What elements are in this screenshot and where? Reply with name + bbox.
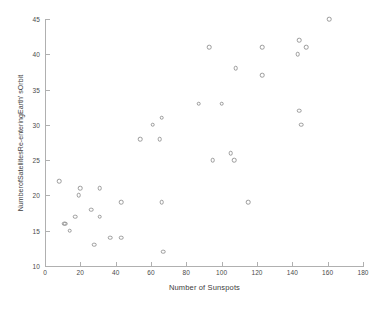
scatter-point bbox=[327, 17, 332, 22]
scatter-chart-figure: 020406080100120140160180 101520253035404… bbox=[0, 0, 381, 312]
scatter-point bbox=[297, 108, 302, 113]
scatter-point bbox=[159, 200, 164, 205]
scatter-point bbox=[234, 66, 239, 71]
x-axis-title: Number of Sunspots bbox=[45, 283, 364, 292]
scatter-point bbox=[97, 214, 102, 219]
scatter-point bbox=[299, 123, 304, 128]
scatter-point bbox=[57, 179, 62, 184]
x-axis-line bbox=[45, 266, 364, 267]
y-axis-tick-label: 10 bbox=[33, 263, 40, 270]
y-axis-tick-label: 40 bbox=[33, 51, 40, 58]
x-axis-tick-label: 140 bbox=[287, 269, 298, 276]
scatter-point bbox=[228, 151, 233, 156]
scatter-point bbox=[138, 137, 143, 142]
scatter-point bbox=[260, 73, 265, 78]
y-axis-tick-label: 45 bbox=[33, 16, 40, 23]
x-axis-tick-label: 0 bbox=[43, 269, 47, 276]
plot-data-area bbox=[45, 19, 363, 266]
scatter-point bbox=[304, 45, 309, 50]
scatter-point bbox=[73, 214, 78, 219]
y-axis-tick-label: 35 bbox=[33, 86, 40, 93]
scatter-point bbox=[295, 52, 300, 57]
scatter-point bbox=[89, 207, 94, 212]
scatter-point bbox=[246, 200, 251, 205]
y-axis-tick bbox=[46, 266, 50, 267]
y-axis-tick-label: 25 bbox=[33, 157, 40, 164]
scatter-point bbox=[207, 45, 212, 50]
scatter-point bbox=[119, 200, 124, 205]
x-axis-tick bbox=[363, 262, 364, 266]
y-axis-tick-label: 30 bbox=[33, 121, 40, 128]
x-axis-tick-label: 100 bbox=[216, 269, 227, 276]
x-axis-tick-label: 180 bbox=[357, 269, 368, 276]
scatter-point bbox=[159, 116, 164, 121]
scatter-point bbox=[219, 101, 224, 106]
scatter-point bbox=[78, 186, 83, 191]
scatter-point bbox=[92, 243, 97, 248]
x-axis-tick-label: 160 bbox=[322, 269, 333, 276]
scatter-point bbox=[232, 158, 237, 163]
scatter-point bbox=[161, 250, 166, 255]
scatter-point bbox=[196, 101, 201, 106]
y-axis-tick-label: 15 bbox=[33, 227, 40, 234]
y-axis-tick-label: 20 bbox=[33, 192, 40, 199]
scatter-point bbox=[119, 235, 124, 240]
scatter-point bbox=[297, 38, 302, 43]
scatter-point bbox=[63, 221, 68, 226]
x-axis-tick-label: 40 bbox=[112, 269, 119, 276]
scatter-point bbox=[67, 228, 72, 233]
scatter-point bbox=[150, 123, 155, 128]
y-axis-title-host: NumberofSatellitesRe-enteringEarth' sOrb… bbox=[13, 19, 27, 267]
scatter-point bbox=[76, 193, 81, 198]
x-axis-tick-label: 80 bbox=[183, 269, 190, 276]
scatter-point bbox=[97, 186, 102, 191]
scatter-point bbox=[211, 158, 216, 163]
x-axis-tick-label: 20 bbox=[77, 269, 84, 276]
scatter-point bbox=[260, 45, 265, 50]
x-axis-tick-label: 120 bbox=[251, 269, 262, 276]
y-axis-title: NumberofSatellitesRe-enteringEarth' sOrb… bbox=[17, 75, 24, 212]
scatter-point bbox=[158, 137, 163, 142]
x-axis-tick-label: 60 bbox=[147, 269, 154, 276]
scatter-point bbox=[108, 235, 113, 240]
